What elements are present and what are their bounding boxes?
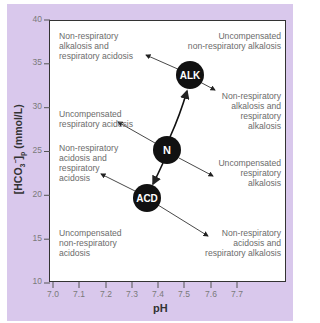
label-uncomp-nr-acidosis: Uncompensated non-respiratory acidosis — [59, 228, 122, 258]
arrow-n-to-alk — [170, 91, 187, 137]
label-nr-acidosis-resp-alkalosis: Non-respiratory acidosis and respiratory… — [170, 228, 281, 258]
label-nr-alkalosis-resp-acidosis: Non-respiratory alkalosis and respirator… — [59, 31, 133, 61]
arrow-alk-upleft — [146, 55, 180, 70]
label-uncomp-resp-acidosis: Uncompensated respiratory acidosis — [59, 109, 133, 129]
label-nr-alkalosis-resp-alkalosis: Non-respiratory alkalosis and respirator… — [190, 91, 281, 131]
label-nr-acidosis-resp-acidosis: Non-respiratory acidosis and respiratory… — [59, 143, 118, 183]
label-uncomp-resp-alkalosis: Uncompensated respiratory alkalosis — [190, 158, 281, 188]
node-acd: ACD — [133, 184, 161, 212]
node-alk: ALK — [176, 61, 204, 89]
arrow-n-to-acd — [153, 163, 163, 184]
label-uncomp-nr-alkalosis: Uncompensated non-respiratory alkalosis — [170, 31, 281, 51]
arrow-alk-downright — [200, 82, 215, 90]
node-normal: N — [153, 136, 181, 164]
